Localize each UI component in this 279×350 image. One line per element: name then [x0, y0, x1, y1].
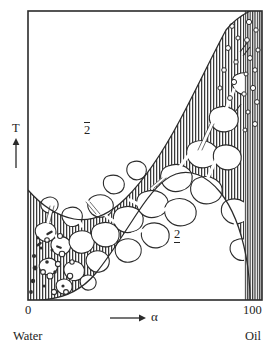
alpha-axis-arrow: [110, 315, 146, 322]
x-axis-tick-left: 0: [25, 304, 31, 317]
y-axis-label: T: [12, 122, 20, 135]
x-axis-endpoint-water: Water: [13, 330, 43, 343]
x-axis-tick-right: 100: [243, 304, 262, 317]
region-lower-value: 2: [174, 228, 180, 243]
phase-diagram-figure: T 2 2 0 100 α Water Oil: [0, 0, 279, 350]
t-axis-arrow: [13, 138, 20, 168]
x-axis-label: α: [151, 310, 158, 323]
region-label-lower: 2: [174, 228, 180, 243]
region-upper-value: 2: [84, 122, 90, 137]
phase-diagram-canvas: [0, 0, 279, 350]
region-label-upper: 2: [84, 122, 90, 137]
x-axis-endpoint-oil: Oil: [245, 330, 261, 343]
